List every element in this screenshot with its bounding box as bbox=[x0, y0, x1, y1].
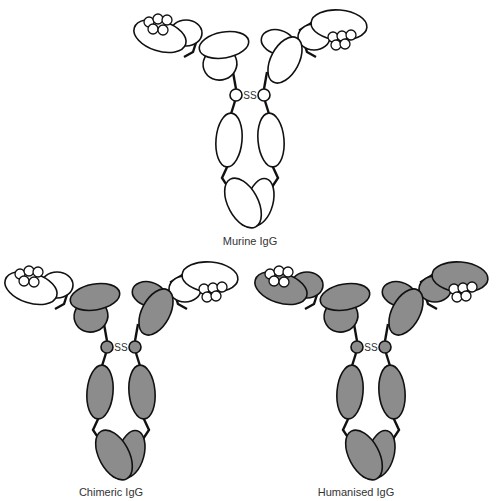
humanised-igg-drawing bbox=[251, 260, 490, 486]
murine-igg-label: Murine IgG bbox=[180, 235, 320, 247]
ss-label-murine: SS bbox=[243, 90, 257, 101]
chimeric-igg-label: Chimeric IgG bbox=[41, 486, 181, 498]
ss-label-chimeric: SS bbox=[114, 342, 128, 353]
murine-igg-drawing bbox=[130, 8, 369, 234]
humanised-igg-label: Humanised IgG bbox=[286, 486, 426, 498]
ss-label-humanised: SS bbox=[364, 342, 378, 353]
antibody-diagram: SS SS SS bbox=[0, 0, 497, 501]
chimeric-igg-drawing bbox=[1, 260, 240, 486]
